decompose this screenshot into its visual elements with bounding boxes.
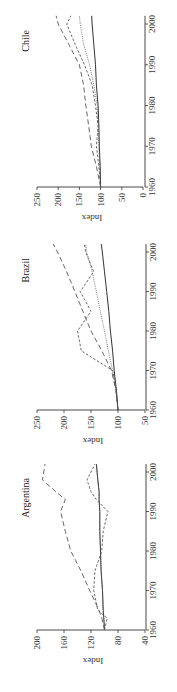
year-tick-label: 1980 xyxy=(148,542,158,561)
index-tick-label: 150 xyxy=(86,416,96,430)
year-tick-label: 1990 xyxy=(148,502,158,521)
year-tick-label: 2000 xyxy=(147,15,157,34)
year-tick-label: 1960 xyxy=(148,401,158,420)
panel-title: Argentina xyxy=(20,477,31,517)
series-short-dashed xyxy=(78,244,119,410)
index-tick-label: 100 xyxy=(113,416,123,430)
index-tick-label: 160 xyxy=(59,636,69,650)
year-tick-label: 1980 xyxy=(148,322,158,341)
index-tick-label: 250 xyxy=(32,416,42,430)
index-tick-label: 150 xyxy=(74,193,84,207)
year-tick-label: 1970 xyxy=(147,137,157,156)
series-short-dashed xyxy=(87,464,108,630)
year-tick-label: 1970 xyxy=(148,581,158,600)
index-tick-label: 200 xyxy=(59,416,69,430)
series-dotted xyxy=(86,244,118,410)
year-tick-label: 2000 xyxy=(148,243,158,262)
panel-title: Brazil xyxy=(20,258,31,283)
index-axis-label: Index xyxy=(82,656,103,666)
chart-panel-brazil: 50100150200250Index19601970198019902000B… xyxy=(20,243,158,447)
index-axis-label: Index xyxy=(81,213,102,223)
panel-title: Chile xyxy=(20,29,31,51)
year-tick-label: 1990 xyxy=(148,282,158,301)
year-tick-label: 2000 xyxy=(148,463,158,482)
index-tick-label: 200 xyxy=(53,193,63,207)
series-long-dashed xyxy=(53,244,118,410)
index-tick-label: 200 xyxy=(32,636,42,650)
chart-panel-chile: 050100150200250Index19601970198019902000… xyxy=(20,15,157,224)
index-tick-label: 120 xyxy=(86,636,96,650)
index-tick-label: 100 xyxy=(96,193,106,207)
index-tick-label: 80 xyxy=(113,636,123,646)
year-tick-label: 1960 xyxy=(148,621,158,640)
year-tick-label: 1960 xyxy=(147,178,157,197)
chart-panel-argentina: 4080120160200Index19601970198019902000Ar… xyxy=(20,463,158,667)
series-long-dashed xyxy=(42,464,104,630)
year-tick-label: 1990 xyxy=(147,55,157,74)
index-axis-label: Index xyxy=(82,436,103,446)
year-tick-label: 1980 xyxy=(147,96,157,115)
year-tick-label: 1970 xyxy=(148,361,158,380)
index-tick-label: 250 xyxy=(32,193,42,207)
index-tick-label: 50 xyxy=(117,193,127,203)
figure: 050100150200250Index19601970198019902000… xyxy=(0,0,177,692)
series-solid xyxy=(92,16,101,187)
